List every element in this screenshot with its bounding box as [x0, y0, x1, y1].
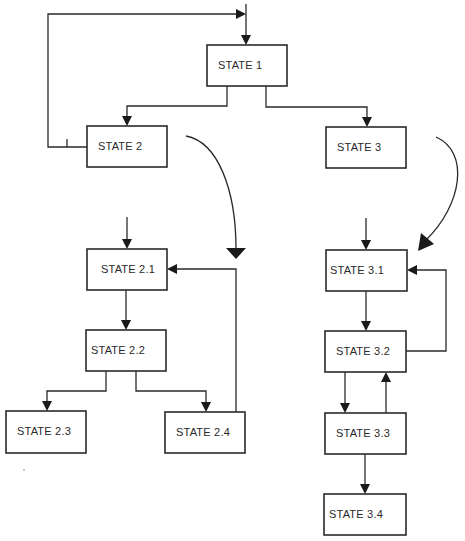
refinement-arrow-state-3 [418, 137, 458, 251]
arrowhead-icon [407, 265, 417, 275]
transition-state-1-to-state-3 [266, 86, 372, 127]
arrowhead-icon [418, 233, 434, 251]
transition-state-3-2-to-state-3-3 [340, 372, 350, 413]
arrowhead-icon [340, 403, 350, 413]
transition-initial-to-state-2-1 [122, 217, 132, 249]
arrowhead-icon [381, 372, 391, 382]
state-3-3[interactable]: STATE 3.3 [325, 413, 406, 454]
arrowhead-icon [241, 35, 251, 45]
state-label: STATE 2.2 [91, 344, 145, 356]
state-diagram: STATE 1 STATE 2 STATE 3 STATE 2.1 STATE … [0, 0, 465, 541]
state-label: STATE 3.1 [330, 264, 384, 276]
state-label: STATE 3.3 [336, 427, 390, 439]
state-2-4[interactable]: STATE 2.4 [165, 412, 245, 453]
state-1[interactable]: STATE 1 [207, 45, 287, 86]
arrowhead-icon [122, 239, 132, 249]
state-label: STATE 2.1 [101, 263, 155, 275]
transition-state-2-4-to-state-2-1 [167, 264, 236, 412]
state-label: STATE 3 [337, 141, 381, 153]
refinement-arrow-state-2 [186, 136, 246, 259]
state-3[interactable]: STATE 3 [326, 127, 406, 168]
state-label: STATE 3.4 [329, 508, 383, 520]
state-label: STATE 2.4 [176, 426, 230, 438]
transition-state-2-1-to-state-2-2 [121, 290, 131, 330]
state-2-2[interactable]: STATE 2.2 [86, 330, 166, 371]
transition-initial-to-state-3-1 [361, 218, 371, 250]
arrowhead-icon [361, 321, 371, 331]
state-3-2[interactable]: STATE 3.2 [325, 331, 406, 372]
transition-state-2-2-to-state-2-4 [136, 371, 211, 412]
state-label: STATE 2.3 [17, 425, 71, 437]
arrowhead-icon [362, 117, 372, 127]
transition-state-3-1-to-state-3-2 [361, 291, 371, 331]
arrowhead-icon [201, 402, 211, 412]
arrowhead-icon [226, 248, 246, 259]
arrowhead-icon [361, 240, 371, 250]
arrowhead-icon [122, 116, 132, 126]
arrowhead-icon [167, 264, 177, 274]
state-3-1[interactable]: STATE 3.1 [326, 250, 407, 291]
arrowhead-icon [42, 401, 52, 411]
state-label: STATE 3.2 [336, 345, 390, 357]
transition-state-3-3-to-state-3-4 [360, 454, 370, 494]
stray-dot [23, 469, 25, 471]
state-2[interactable]: STATE 2 [87, 126, 167, 167]
transition-state-3-3-to-state-3-2 [381, 372, 391, 413]
state-2-1[interactable]: STATE 2.1 [87, 249, 167, 290]
state-label: STATE 1 [218, 59, 262, 71]
arrowhead-icon [121, 320, 131, 330]
arrowhead-icon [236, 9, 246, 19]
transition-state-1-to-state-2 [122, 86, 227, 126]
state-label: STATE 2 [98, 140, 142, 152]
arrowhead-icon [360, 484, 370, 494]
transition-initial-to-state-1 [241, 4, 251, 45]
state-2-3[interactable]: STATE 2.3 [6, 411, 86, 453]
state-3-4[interactable]: STATE 3.4 [324, 494, 406, 535]
transition-state-3-2-to-state-3-1 [406, 265, 446, 351]
transition-state-2-2-to-state-2-3 [42, 371, 106, 411]
